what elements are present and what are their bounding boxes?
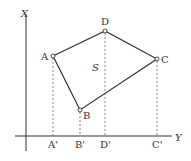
area-label: S (92, 62, 99, 73)
vertex-b-label: B (83, 110, 90, 121)
vertex-b-marker (78, 108, 82, 112)
vertex-d-label: D (101, 16, 109, 27)
quadrilateral-projection-diagram: X Y A B C D S A' B' D' C' (0, 0, 191, 161)
vertex-d-marker (103, 29, 107, 33)
vertex-a-label: A (40, 51, 49, 62)
projection-label-c: C' (152, 139, 162, 150)
vertex-a-marker (51, 54, 55, 58)
projection-label-d: D' (100, 139, 111, 150)
vertex-c-marker (155, 57, 159, 61)
projection-label-b: B' (75, 139, 85, 150)
vertical-axis-label: X (20, 8, 29, 19)
horizontal-axis-label: Y (175, 132, 183, 143)
vertex-c-label: C (161, 54, 169, 65)
projection-label-a: A' (47, 139, 58, 150)
